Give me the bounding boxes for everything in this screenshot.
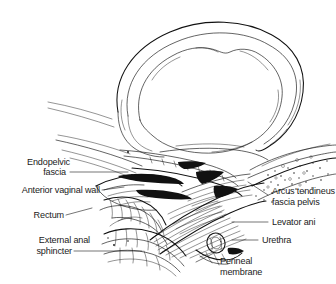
- label-perineal-membrane-line2: membrane: [220, 267, 262, 277]
- label-endopelvic-fascia-line1: Endopelvic: [27, 157, 71, 167]
- label-arcus-tendineus-line2: fascia pelvis: [272, 197, 320, 207]
- anatomy-figure: Endopelvic fascia Anterior vaginal wall …: [0, 0, 336, 284]
- label-anterior-vaginal-wall: Anterior vaginal wall: [22, 185, 100, 195]
- label-arcus-tendineus-line1: Arcus tendineus: [272, 186, 336, 196]
- label-external-anal-sphincter-line1: External anal: [39, 235, 90, 245]
- label-external-anal-sphincter-line2: sphincter: [36, 246, 72, 256]
- label-endopelvic-fascia-line2: fascia: [43, 167, 67, 177]
- label-levator-ani: Levator ani: [272, 217, 315, 227]
- anatomy-illustration: Endopelvic fascia Anterior vaginal wall …: [0, 0, 336, 284]
- label-perineal-membrane-line1: Perineal: [220, 256, 252, 266]
- label-rectum: Rectum: [34, 210, 64, 220]
- label-urethra: Urethra: [262, 235, 292, 245]
